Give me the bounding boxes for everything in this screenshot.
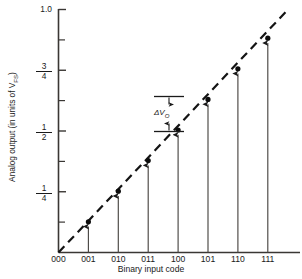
x-axis-title: Binary input code bbox=[0, 264, 302, 274]
point-010 bbox=[116, 189, 121, 194]
y-tick-label-one-quarter: 1 4 bbox=[36, 184, 52, 203]
y-tick-label-1.0: 1.0 bbox=[22, 4, 52, 14]
x-tick-label-011: 011 bbox=[131, 254, 165, 264]
output-stems bbox=[88, 43, 267, 253]
fraction-denominator: 2 bbox=[36, 133, 52, 142]
x-tick-label-100: 100 bbox=[161, 254, 195, 264]
point-110 bbox=[235, 66, 240, 71]
y-tick-label-one-half: 1 2 bbox=[36, 123, 52, 142]
point-111 bbox=[265, 36, 270, 41]
dac-transfer-chart: Analog output (in units of VFS) 1.0 3 4 … bbox=[0, 0, 302, 279]
delta-vo-label-main: ΔV bbox=[154, 108, 165, 117]
fraction-numerator: 1 bbox=[36, 184, 52, 193]
y-tick-label-three-quarters: 3 4 bbox=[36, 62, 52, 81]
fraction-numerator: 1 bbox=[36, 123, 52, 132]
x-tick-label-000: 000 bbox=[42, 254, 76, 264]
point-101 bbox=[205, 97, 210, 102]
y-axis-title: Analog output (in units of VFS) bbox=[7, 27, 21, 227]
x-tick-label-111: 111 bbox=[251, 254, 285, 264]
fraction-denominator: 4 bbox=[36, 72, 52, 81]
point-011 bbox=[146, 158, 151, 163]
y-axis-title-tail: ) bbox=[7, 72, 17, 75]
x-tick-label-110: 110 bbox=[221, 254, 255, 264]
fraction-denominator: 4 bbox=[36, 194, 52, 203]
x-tick-label-101: 101 bbox=[191, 254, 225, 264]
y-axis-title-subscript: FS bbox=[12, 75, 19, 83]
y-axis-title-main: Analog output (in units of V bbox=[7, 83, 17, 182]
x-tick-label-010: 010 bbox=[101, 254, 135, 264]
fraction-numerator: 3 bbox=[36, 62, 52, 71]
delta-vo-label-subscript: O bbox=[165, 113, 170, 119]
point-001 bbox=[86, 219, 91, 224]
delta-vo-label: ΔVO bbox=[154, 108, 169, 119]
x-tick-label-001: 001 bbox=[71, 254, 105, 264]
